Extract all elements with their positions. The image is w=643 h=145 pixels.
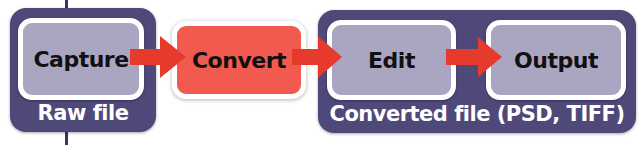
- guide-line-bottom: [65, 130, 68, 145]
- step-convert: Convert: [172, 21, 306, 99]
- arrow-capture-to-convert-icon: [130, 36, 186, 78]
- arrow-edit-to-output-icon: [446, 37, 502, 77]
- step-output: Output: [486, 20, 626, 100]
- step-capture-label: Capture: [33, 47, 128, 72]
- step-output-label: Output: [514, 48, 598, 73]
- converted-file-label: Converted file (PSD, TIFF): [318, 102, 636, 126]
- raw-file-label: Raw file: [10, 101, 156, 125]
- step-capture: Capture: [18, 18, 144, 100]
- step-edit: Edit: [327, 20, 456, 100]
- step-edit-label: Edit: [368, 48, 415, 73]
- step-convert-label: Convert: [192, 48, 286, 73]
- arrow-convert-to-edit-icon: [292, 36, 342, 78]
